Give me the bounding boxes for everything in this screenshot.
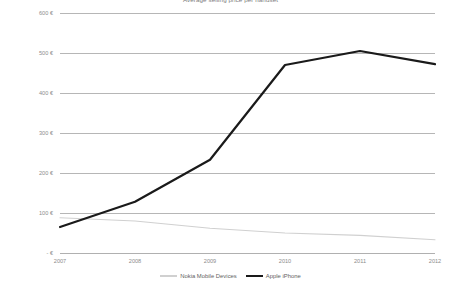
chart-container: Average selling price per handset 600 €5… [0,0,461,293]
y-axis-tick-label: - € [46,250,53,256]
x-axis-tick-label: 2009 [204,258,216,264]
plot-area [60,13,435,253]
x-axis-tick-label: 2008 [129,258,141,264]
y-axis-tick-label: 500 € [39,50,53,56]
legend-label: Apple iPhone [266,273,301,279]
legend-swatch-icon [246,275,263,277]
y-axis-tick-label: 100 € [39,210,53,216]
series-lines [60,13,435,253]
x-axis-tick-label: 2007 [54,258,66,264]
legend-item[interactable]: Nokia Mobile Devices [160,273,237,279]
chart-legend: Nokia Mobile DevicesApple iPhone [0,273,461,279]
legend-swatch-icon [160,275,177,276]
y-axis-tick-label: 600 € [39,10,53,16]
x-axis-tick-label: 2012 [429,258,441,264]
gridline [60,253,435,254]
y-axis-tick-label: 200 € [39,170,53,176]
series-line [60,51,435,227]
x-axis-tick-label: 2011 [354,258,366,264]
chart-title: Average selling price per handset [0,0,461,3]
x-axis-tick-label: 2010 [279,258,291,264]
legend-label: Nokia Mobile Devices [180,273,237,279]
legend-item[interactable]: Apple iPhone [246,273,301,279]
series-line [60,218,435,240]
y-axis-labels: 600 €500 €400 €300 €200 €100 €- € [0,13,57,253]
x-axis-labels: 200720082009201020112012 [60,258,435,270]
y-axis-tick-label: 400 € [39,90,53,96]
y-axis-tick-label: 300 € [39,130,53,136]
